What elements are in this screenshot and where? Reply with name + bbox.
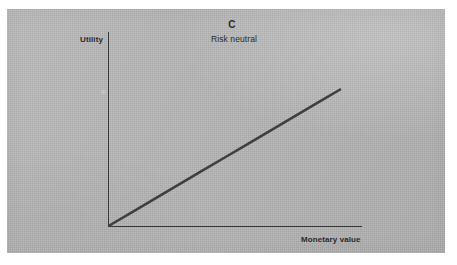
- figure-panel: C Risk neutral Utility Monetary value: [0, 0, 457, 265]
- utility-curve-risk-neutral: [109, 89, 342, 226]
- panel-subtitle: Risk neutral: [211, 35, 257, 44]
- x-axis-label: Monetary value: [301, 236, 361, 244]
- panel-letter: C: [228, 20, 235, 30]
- y-axis-label: Utility: [80, 36, 103, 44]
